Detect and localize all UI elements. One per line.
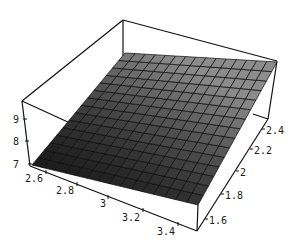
svg-text:3.2: 3.2 [122, 212, 140, 223]
y-tick: 2.4 [262, 125, 284, 136]
svg-text:1.6: 1.6 [209, 215, 227, 226]
svg-text:2: 2 [240, 167, 246, 178]
svg-text:1.8: 1.8 [225, 190, 243, 201]
svg-text:2.6: 2.6 [25, 173, 43, 184]
y-tick: 1.6 [205, 215, 227, 226]
x-tick: 2.6 [25, 170, 46, 184]
x-tick: 2.8 [56, 182, 77, 196]
surface-mesh [32, 53, 277, 205]
x-tick: 3.2 [122, 208, 143, 223]
svg-text:2.2: 2.2 [254, 145, 272, 156]
svg-text:7: 7 [13, 159, 19, 170]
y-tick: 1.8 [221, 190, 243, 201]
x-tick: 3 [100, 195, 108, 209]
y-tick: 2 [236, 167, 246, 178]
svg-text:8: 8 [13, 136, 19, 147]
x-tick: 3.4 [157, 222, 178, 237]
surface-plot: 7 8 9 2.6 2.8 3 3.2 3.4 1.6 1.8 2 2.2 2.… [0, 0, 295, 251]
svg-text:9: 9 [13, 114, 19, 125]
svg-text:2.8: 2.8 [56, 185, 74, 196]
svg-text:2.4: 2.4 [266, 125, 284, 136]
svg-text:3: 3 [100, 198, 106, 209]
y-tick: 2.2 [250, 145, 272, 156]
svg-text:3.4: 3.4 [157, 226, 175, 237]
